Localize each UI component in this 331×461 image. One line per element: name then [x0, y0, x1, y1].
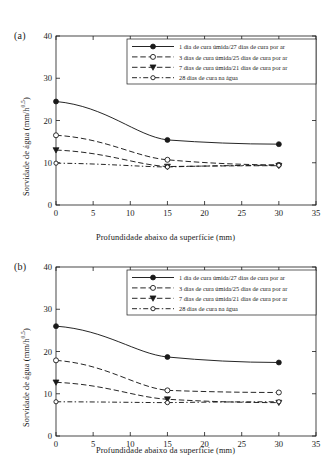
svg-text:40: 40 [43, 31, 52, 41]
panel-b: (b) Sorvidade de água (mm/h0,5) Profundi… [0, 231, 331, 461]
svg-text:20: 20 [200, 439, 209, 449]
panel-a-plot: 051015202530350102030401 dia de cura úmi… [0, 0, 331, 230]
svg-text:20: 20 [200, 208, 209, 218]
svg-text:30: 30 [43, 73, 52, 83]
svg-text:30: 30 [43, 304, 52, 314]
svg-text:0: 0 [48, 200, 52, 210]
svg-text:5: 5 [91, 208, 95, 218]
series-line [54, 358, 282, 395]
svg-text:40: 40 [43, 262, 52, 272]
legend: 1 dia de cura úmida/27 dias de cura por … [127, 270, 316, 315]
svg-text:0: 0 [54, 439, 58, 449]
series-line [54, 324, 282, 365]
svg-text:25: 25 [237, 439, 246, 449]
svg-text:35: 35 [312, 208, 321, 218]
svg-text:10: 10 [126, 208, 135, 218]
svg-text:30: 30 [275, 439, 284, 449]
svg-text:25: 25 [237, 208, 246, 218]
svg-text:10: 10 [126, 439, 135, 449]
legend: 1 dia de cura úmida/27 dias de cura por … [127, 39, 316, 84]
series-line [54, 400, 281, 405]
svg-text:5: 5 [91, 439, 95, 449]
panel-a: (a) Sorvidade de água (mm/h0,5) Profundi… [0, 0, 331, 230]
legend-label: 28 dias de cura na água [179, 74, 238, 81]
svg-text:15: 15 [163, 439, 172, 449]
series-line [54, 99, 282, 147]
svg-text:10: 10 [43, 389, 52, 399]
legend-label: 7 dias de cura úmida/21 dias de cura por… [179, 295, 288, 302]
svg-text:30: 30 [275, 208, 284, 218]
legend-label: 28 dias de cura na água [179, 305, 238, 312]
svg-text:35: 35 [312, 439, 321, 449]
legend-label: 3 dias de cura úmida/25 dias de cura por… [179, 54, 288, 61]
figure-sorptivity: (a) Sorvidade de água (mm/h0,5) Profundi… [0, 0, 331, 461]
svg-text:20: 20 [43, 347, 52, 357]
svg-text:15: 15 [163, 208, 172, 218]
legend-label: 1 dia de cura úmida/27 dias de cura por … [179, 274, 286, 281]
svg-text:0: 0 [48, 431, 52, 441]
svg-text:10: 10 [43, 158, 52, 168]
legend-label: 3 dias de cura úmida/25 dias de cura por… [179, 285, 288, 292]
svg-text:20: 20 [43, 116, 52, 126]
svg-text:0: 0 [54, 208, 58, 218]
panel-b-plot: 051015202530350102030401 dia de cura úmi… [0, 231, 331, 461]
legend-label: 1 dia de cura úmida/27 dias de cura por … [179, 43, 286, 50]
legend-label: 7 dias de cura úmida/21 dias de cura por… [179, 64, 288, 71]
